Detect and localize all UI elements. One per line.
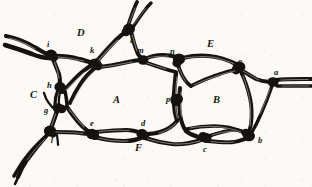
vessel-B-top-boundary	[191, 70, 237, 86]
region-label-D: D	[77, 28, 85, 39]
vessel-top-twin-branches	[128, 2, 151, 27]
vessel-A-left-boundary	[67, 107, 92, 133]
node-label-m: m	[137, 46, 144, 55]
vessel-e-to-d-upper	[96, 130, 142, 133]
vessel-network-diagram	[0, 0, 312, 187]
vessel-k-to-m	[99, 60, 143, 67]
vessel-o-to-b	[241, 72, 252, 134]
node-label-a: a	[274, 68, 278, 77]
vessel-c-to-b-lower	[208, 138, 248, 143]
engraving-figure: A B C D E F a b c d e f g h i k l m n o …	[0, 0, 312, 187]
vessel-A-bottomright-to-d	[145, 121, 177, 134]
region-label-E: E	[207, 39, 214, 50]
node-label-h: h	[47, 81, 52, 90]
vessel-right-exit-trunk	[276, 79, 312, 86]
vessel-n-to-o	[182, 56, 236, 64]
region-label-B: B	[213, 95, 220, 106]
vessel-a-to-b	[252, 86, 272, 132]
vessel-n-to-B-top	[178, 65, 191, 86]
vessel-bottom-left-tail	[14, 134, 48, 184]
vessel-small-cell-close	[59, 92, 60, 105]
vessel-f-to-e	[53, 132, 92, 134]
node-label-n: n	[170, 47, 175, 56]
node-label-g: g	[44, 106, 48, 115]
node-label-k: k	[90, 46, 94, 55]
node-label-d: d	[141, 119, 145, 128]
vessel-i-to-h	[53, 59, 60, 84]
region-label-F: F	[135, 143, 142, 154]
vessel-d-to-c	[145, 138, 201, 144]
vessel-f-tick	[57, 135, 58, 145]
node-label-b: b	[258, 136, 262, 145]
node-label-p: p	[166, 95, 170, 104]
node-label-f: f	[51, 134, 54, 143]
vessel-k-to-l	[97, 31, 127, 61]
vessel-left-entry-trunk	[5, 36, 50, 58]
vessel-B-left-boundary	[179, 88, 186, 131]
vessel-g-to-f	[51, 111, 57, 128]
region-label-A: A	[113, 95, 120, 106]
vessel-i-to-k	[55, 56, 93, 63]
region-label-C: C	[30, 90, 37, 101]
vessel-m-to-A-top	[144, 62, 176, 72]
node-label-l: l	[130, 36, 132, 45]
node-label-c: c	[203, 145, 207, 154]
node-label-e: e	[90, 119, 94, 128]
node-label-i: i	[47, 40, 49, 49]
vessel-e-to-d-lower	[95, 137, 143, 141]
node-label-o: o	[238, 57, 242, 66]
